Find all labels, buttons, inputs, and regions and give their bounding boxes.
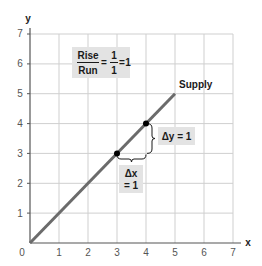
- run-label: Run: [78, 65, 97, 76]
- x-tick-7: 7: [230, 247, 236, 258]
- y-tick-2: 2: [17, 178, 23, 189]
- x-tick-0: 0: [19, 247, 25, 258]
- y-tick-1: 1: [17, 208, 23, 219]
- rise-label: Rise: [77, 50, 99, 61]
- delta-y-brace: [147, 124, 155, 154]
- y-tick-4: 4: [17, 118, 23, 129]
- delta-x-line2: = 1: [124, 180, 139, 191]
- x-tick-6: 6: [201, 247, 207, 258]
- point-4-4: [143, 121, 149, 127]
- y-tick-5: 5: [17, 88, 23, 99]
- slope-annotation: Rise Run = 1 1 = 1: [72, 47, 131, 78]
- equals-sign-2: =: [119, 57, 125, 68]
- y-tick-7: 7: [17, 28, 23, 39]
- supply-chart: 1 2 3 4 5 6 7 0 1 2 3 4 5 6 7 y x Rise R…: [0, 0, 262, 266]
- point-3-3: [114, 150, 120, 156]
- x-tick-5: 5: [172, 247, 178, 258]
- slope-result: 1: [125, 57, 131, 68]
- supply-label: Supply: [179, 79, 213, 90]
- x-tick-2: 2: [85, 247, 91, 258]
- delta-x-brace: [117, 155, 146, 163]
- y-tick-3: 3: [17, 148, 23, 159]
- delta-y-annotation: Δy = 1: [158, 127, 195, 145]
- x-tick-1: 1: [56, 247, 62, 258]
- delta-y-text: Δy = 1: [162, 131, 192, 142]
- chart-svg: 1 2 3 4 5 6 7 0 1 2 3 4 5 6 7 y x Rise R…: [0, 0, 262, 266]
- delta-x-annotation: Δx = 1: [119, 165, 143, 193]
- supply-line: [30, 94, 175, 243]
- x-tick-3: 3: [114, 247, 120, 258]
- delta-x-line1: Δx: [125, 168, 138, 179]
- fraction-numerator: 1: [111, 50, 117, 61]
- fraction-denominator: 1: [111, 65, 117, 76]
- x-tick-4: 4: [143, 247, 149, 258]
- y-tick-6: 6: [17, 58, 23, 69]
- y-axis-label: y: [25, 13, 31, 24]
- x-axis-label: x: [245, 237, 251, 248]
- equals-sign-1: =: [101, 57, 107, 68]
